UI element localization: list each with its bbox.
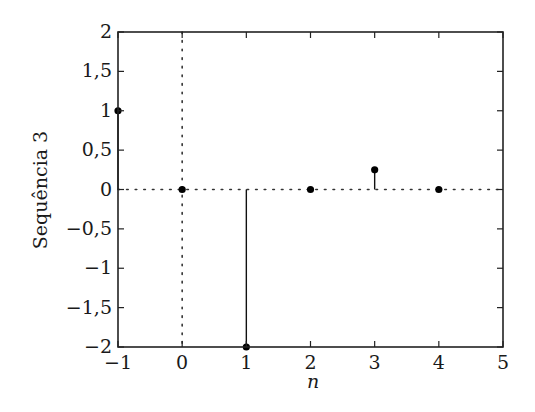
y-tick-label: −1,5	[66, 296, 112, 318]
stem-marker	[179, 186, 186, 193]
x-tick-label: 4	[433, 351, 445, 373]
stem-chart: −1012345 −2−1,5−1−0,500,511,52 n Sequênc…	[0, 0, 535, 412]
y-tick-label: −1	[84, 256, 112, 278]
stem-marker	[371, 166, 378, 173]
x-tick-label: 0	[176, 351, 188, 373]
stem-marker	[435, 186, 442, 193]
y-tick-label: 1	[100, 99, 112, 121]
x-axis-label: n	[307, 370, 319, 392]
x-tick-label: 3	[369, 351, 381, 373]
x-tick-label: 1	[240, 351, 252, 373]
stems	[114, 107, 442, 350]
y-axis-label: Sequência 3	[29, 131, 51, 249]
y-tick-label: 1,5	[82, 59, 112, 81]
y-tick-label: 0,5	[82, 138, 112, 160]
stem-marker	[307, 186, 314, 193]
x-axis-ticks: −1012345	[104, 32, 509, 373]
y-tick-label: −2	[84, 335, 112, 357]
x-tick-label: 5	[497, 351, 509, 373]
y-tick-label: 0	[100, 178, 112, 200]
y-tick-label: 2	[100, 20, 112, 42]
y-tick-label: −0,5	[66, 217, 112, 239]
